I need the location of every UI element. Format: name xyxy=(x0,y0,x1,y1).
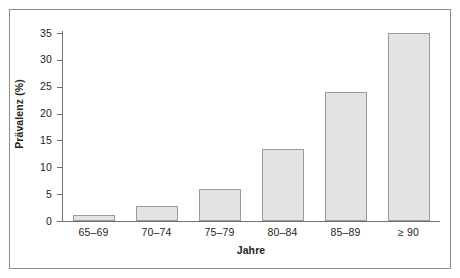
y-axis-tick-mark xyxy=(57,114,62,115)
bar xyxy=(388,33,430,221)
y-axis-tick-mark xyxy=(57,194,62,195)
x-axis-tick-label: 85–89 xyxy=(314,226,377,238)
bar xyxy=(325,92,367,221)
y-axis-tick-mark xyxy=(57,221,62,222)
y-axis-tick-mark xyxy=(57,167,62,168)
x-axis-line xyxy=(62,221,440,222)
y-axis-tick-label: 35 xyxy=(8,28,52,39)
y-axis-tick-mark xyxy=(57,140,62,141)
y-axis-tick-label: 10 xyxy=(8,162,52,173)
y-axis-tick-label: 20 xyxy=(8,108,52,119)
bar xyxy=(136,206,178,221)
x-axis-tick-label: ≥ 90 xyxy=(377,226,440,238)
y-axis-tick-label: 25 xyxy=(8,81,52,92)
plot-area xyxy=(63,30,439,221)
y-axis-tick-mark xyxy=(57,87,62,88)
x-axis-tick-label: 75–79 xyxy=(188,226,251,238)
y-axis-tick-labels: 05101520253035 xyxy=(6,0,52,278)
bar xyxy=(262,149,304,221)
y-axis-tick-label: 5 xyxy=(8,189,52,200)
figure-root: Prävalenz (%) 05101520253035 65–6970–747… xyxy=(0,0,460,278)
y-axis-tick-label: 15 xyxy=(8,135,52,146)
y-axis-tick-mark xyxy=(57,60,62,61)
y-axis-tick-label: 30 xyxy=(8,54,52,65)
bar xyxy=(199,189,241,221)
x-axis-tick-label: 80–84 xyxy=(251,226,314,238)
y-axis-tick-label: 0 xyxy=(8,216,52,227)
x-axis-tick-label: 65–69 xyxy=(62,226,125,238)
y-axis-tick-mark xyxy=(57,33,62,34)
bar xyxy=(73,215,115,221)
x-axis-title: Jahre xyxy=(62,244,440,256)
x-axis-tick-label: 70–74 xyxy=(125,226,188,238)
